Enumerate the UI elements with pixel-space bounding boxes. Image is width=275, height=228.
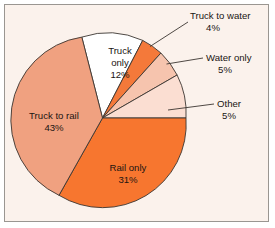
callout-label-water-only: Water only (206, 52, 252, 63)
slice-value-rail-only: 31% (118, 174, 138, 185)
pie-chart-plot: Truck only 12% Truck to rail 43% Rail on… (0, 0, 275, 228)
slice-label-rail-only: Rail only (110, 162, 147, 173)
callout-value-water-only: 5% (218, 64, 232, 75)
slice-value-truck-only: 12% (110, 69, 130, 80)
callout-label-truck-to-water: Truck to water (190, 10, 251, 21)
slice-label-truck-only-line2: only (111, 57, 129, 68)
callout-value-truck-to-water: 4% (206, 22, 220, 33)
leader-line-water-only (167, 58, 204, 64)
slice-label-truck-to-rail: Truck to rail (29, 110, 79, 121)
pie-chart-screenshot: Truck only 12% Truck to rail 43% Rail on… (0, 0, 275, 228)
leader-line-truck-to-water (150, 22, 188, 47)
callout-value-other: 5% (222, 110, 236, 121)
callout-label-other: Other (217, 98, 242, 109)
slice-value-truck-to-rail: 43% (44, 122, 64, 133)
slice-label-truck-only: Truck (108, 45, 132, 56)
